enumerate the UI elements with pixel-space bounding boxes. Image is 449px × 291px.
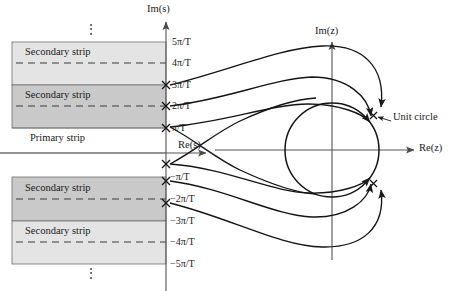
tick-label-neg3pi: −3π/T bbox=[170, 216, 195, 226]
tick-label-neg1pi: −π/T bbox=[170, 172, 190, 182]
tick-label-neg2pi: −2π/T bbox=[170, 194, 195, 204]
z-real-axis-label: Re(z) bbox=[419, 143, 442, 154]
figure-root: Im(s) Re(s) 5π/T 4π/T 3π/T 2π/T π/T −π/T… bbox=[0, 0, 449, 291]
strip-label-secondary-lower-2: Secondary strip bbox=[25, 226, 91, 237]
curve-from-1pi bbox=[170, 104, 370, 127]
unit-circle-leader-line bbox=[378, 117, 391, 121]
tick-label-neg5pi: −5π/T bbox=[170, 259, 195, 269]
s-real-axis-label: Re(s) bbox=[178, 140, 201, 151]
mapping-curves-lower bbox=[170, 164, 382, 247]
curve-primary-lower-cross bbox=[170, 98, 316, 164]
curve-from-2pi bbox=[170, 77, 371, 116]
ellipsis-top: ⋮ bbox=[85, 22, 97, 37]
curve-from-neg1pi bbox=[170, 164, 370, 193]
tick-label-4pi: 4π/T bbox=[172, 58, 191, 68]
curve-from-neg3pi bbox=[170, 190, 382, 247]
strip-label-primary: Primary strip bbox=[30, 133, 85, 144]
s-to-z-mapping-diagram bbox=[0, 0, 449, 291]
tick-label-1pi: π/T bbox=[172, 123, 186, 133]
tick-label-5pi: 5π/T bbox=[172, 37, 191, 47]
strip-label-secondary-upper-2: Secondary strip bbox=[25, 47, 91, 58]
ellipsis-bottom: ⋮ bbox=[85, 266, 97, 281]
tick-label-2pi: 2π/T bbox=[172, 101, 191, 111]
strip-label-secondary-lower-1: Secondary strip bbox=[25, 183, 91, 194]
curve-from-3pi bbox=[170, 46, 382, 107]
strip-label-secondary-upper-1: Secondary strip bbox=[25, 90, 91, 101]
tick-label-neg4pi: −4π/T bbox=[170, 237, 195, 247]
mapping-curves-upper bbox=[170, 46, 382, 127]
unit-circle-label: Unit circle bbox=[393, 112, 438, 123]
curve-primary-upper-cross bbox=[170, 127, 316, 194]
s-imaginary-axis-label: Im(s) bbox=[147, 4, 170, 15]
tick-label-3pi: 3π/T bbox=[172, 80, 191, 90]
z-imaginary-axis-label: Im(z) bbox=[315, 26, 338, 37]
